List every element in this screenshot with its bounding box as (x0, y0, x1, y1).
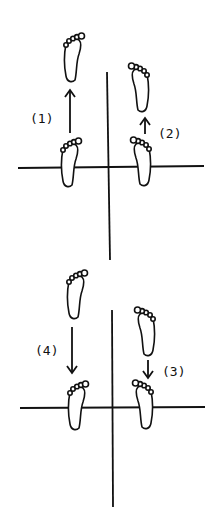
top-step-1-foot-from-icon (131, 137, 152, 186)
bottom-step-label: (3) (162, 364, 185, 379)
top-step-label: (1) (30, 111, 53, 126)
bottom-step-1-arrow-down-icon (143, 360, 153, 378)
bottom-step-label: (4) (35, 343, 58, 358)
top-horizontal-axis (18, 166, 204, 168)
bottom-step-1-foot-from-icon (135, 307, 156, 356)
top-step-0-foot-to-icon (64, 33, 85, 82)
bottom-horizontal-axis (20, 407, 205, 408)
top-vertical-axis (107, 72, 110, 260)
top-step-label: (2) (158, 126, 181, 141)
top-step-0-arrow-up-icon (65, 90, 75, 133)
bottom-vertical-axis (112, 310, 113, 507)
bottom-step-0-foot-from-icon (67, 270, 88, 319)
top-step-1-arrow-up-icon (140, 118, 150, 134)
bottom-step-0-arrow-down-icon (67, 327, 77, 373)
top-step-1-foot-to-icon (129, 63, 150, 112)
bottom-step-1-foot-to-icon (133, 380, 154, 429)
bottom-step-0-foot-to-icon (68, 381, 89, 430)
footstep-diagram: (1)(2)(4)(3) (0, 0, 222, 517)
top-step-0-foot-from-icon (61, 138, 82, 187)
